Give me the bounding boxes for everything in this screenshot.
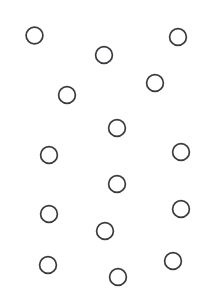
- figure-canvas: [0, 0, 206, 297]
- scatter-plot: [0, 0, 206, 297]
